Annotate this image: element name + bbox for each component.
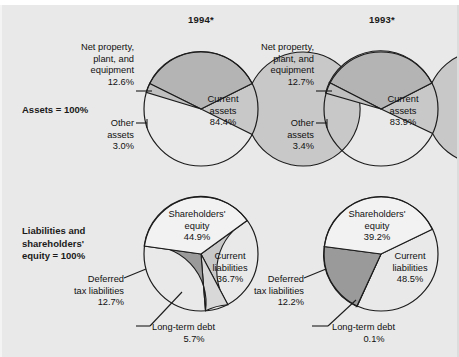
- row-title-assets: Assets = 100%: [22, 104, 88, 117]
- label-value: 3.0%: [56, 141, 134, 153]
- label-net-property-1994: Net property, plant, and equipment 12.6%: [50, 42, 134, 88]
- label-value: 5.7%: [152, 334, 236, 346]
- row-title-liabilities-line-2: shareholders': [22, 238, 85, 251]
- column-title-1993: 1993*: [369, 14, 395, 25]
- label-value: 0.1%: [332, 334, 416, 346]
- leader-line-long-term-debt-1993: [312, 300, 360, 332]
- label-shareholders-equity-1993: Shareholders' equity 39.2%: [334, 209, 420, 244]
- label-line-2: assets: [196, 106, 250, 118]
- label-current-assets-1993: Current assets 83.9%: [376, 94, 430, 129]
- label-value: 83.9%: [376, 117, 430, 129]
- label-value: 39.2%: [334, 232, 420, 244]
- label-other-assets-1994: Other assets 3.0%: [56, 118, 134, 153]
- label-value: 12.7%: [28, 297, 124, 309]
- label-current-liabilities-1993: Current liabilities 48.5%: [381, 251, 439, 286]
- label-line-1: Net property,: [230, 42, 314, 54]
- label-other-assets-1993: Other assets 3.4%: [236, 118, 314, 153]
- label-value: 12.6%: [50, 77, 134, 89]
- column-title-1994: 1994*: [188, 14, 214, 25]
- label-value: 48.5%: [381, 274, 439, 286]
- row-title-liabilities: Liabilities and shareholders' equity = 1…: [22, 225, 85, 263]
- label-value: 12.7%: [230, 77, 314, 89]
- label-line-1: Deferred: [208, 274, 304, 286]
- label-net-property-1993: Net property, plant, and equipment 12.7%: [230, 42, 314, 88]
- slice-deferred-tax-liabilities: [324, 247, 381, 307]
- label-value: 3.4%: [236, 141, 314, 153]
- label-line-2: equity: [334, 221, 420, 233]
- label-deferred-tax-liabilities-1993: Deferred tax liabilities 12.2%: [208, 274, 304, 309]
- label-line-2: equity: [154, 221, 240, 233]
- left-edge-band: [0, 0, 2, 357]
- label-line-3: equipment: [50, 65, 134, 77]
- label-line-1: Current: [201, 251, 259, 263]
- label-line-1: Shareholders': [154, 209, 240, 221]
- label-line-2: liabilities: [381, 263, 439, 275]
- label-line-2: tax liabilities: [28, 286, 124, 298]
- row-title-liabilities-line-3: equity = 100%: [22, 250, 85, 263]
- label-line-2: tax liabilities: [208, 286, 304, 298]
- label-line-1: Current: [196, 94, 250, 106]
- row-title-liabilities-line-1: Liabilities and: [22, 225, 85, 238]
- label-line-2: assets: [236, 130, 314, 142]
- label-value: 44.9%: [154, 232, 240, 244]
- label-line-1: Deferred: [28, 274, 124, 286]
- label-deferred-tax-liabilities-1994: Deferred tax liabilities 12.7%: [28, 274, 124, 309]
- leader-line-net-property-1993: [316, 88, 334, 94]
- leader-line-deferred-tax-1994: [124, 268, 150, 284]
- leader-line-other-assets-1994: [136, 119, 150, 131]
- label-line-1: Other: [236, 118, 314, 130]
- label-line-1: Other: [56, 118, 134, 130]
- leader-line-other-assets-1993: [316, 119, 330, 131]
- leader-line-deferred-tax-1993: [304, 268, 330, 284]
- label-line-2: plant, and: [50, 54, 134, 66]
- label-line-2: assets: [56, 130, 134, 142]
- label-line-3: equipment: [230, 65, 314, 77]
- label-value: 12.2%: [208, 297, 304, 309]
- figure-canvas: 1994* 1993* Assets = 100% Liabilities an…: [0, 0, 459, 357]
- label-line-1: Shareholders': [334, 209, 420, 221]
- label-shareholders-equity-1994: Shareholders' equity 44.9%: [154, 209, 240, 244]
- label-line-2: plant, and: [230, 54, 314, 66]
- label-line-2: liabilities: [201, 263, 259, 275]
- label-line-1: Current: [381, 251, 439, 263]
- leader-line-long-term-debt-1994: [136, 292, 184, 332]
- label-line-1: Current: [376, 94, 430, 106]
- leader-line-net-property-1994: [136, 88, 154, 94]
- label-line-1: Net property,: [50, 42, 134, 54]
- label-line-2: assets: [376, 106, 430, 118]
